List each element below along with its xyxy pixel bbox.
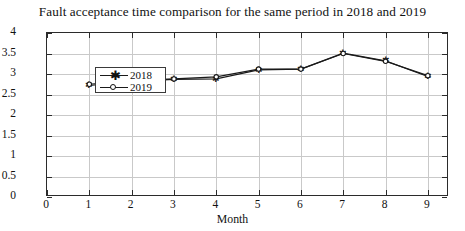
y-tick-label: 3.5 [0,47,16,59]
legend[interactable]: ✱ 2018 2019 [95,67,166,93]
y-tick-label: 2.5 [0,88,16,100]
star-marker-icon: ✱ [110,70,119,81]
data-point-marker-2019 [87,82,91,86]
y-tick-label: 0 [0,190,16,202]
x-tick-label: 7 [330,199,354,211]
legend-label-2018: 2018 [130,69,152,81]
data-point-marker-2019 [172,77,176,81]
data-point-marker-2019 [383,59,387,63]
plot-area: ✱✱✱✱✱✱✱✱✱ ✱ 2018 2019 [46,32,448,196]
legend-item-2019[interactable]: 2019 [98,82,163,93]
data-point-marker-2019 [426,73,430,77]
x-tick-label: 3 [161,199,185,211]
x-axis-title: Month [0,212,465,227]
y-tick-label: 1 [0,149,16,161]
chart-figure: Fault acceptance time comparison for the… [0,0,465,231]
y-tick-label: 1.5 [0,129,16,141]
data-point-marker-2019 [341,51,345,55]
chart-title: Fault acceptance time comparison for the… [0,4,465,20]
x-tick-label: 4 [203,199,227,211]
legend-label-2019: 2019 [130,81,152,93]
y-tick-label: 4 [0,26,16,38]
circle-marker-icon [110,84,116,90]
x-tick-label: 0 [34,199,58,211]
legend-item-2018[interactable]: ✱ 2018 [98,70,163,81]
axis-tick [442,197,447,198]
x-tick-label: 6 [288,199,312,211]
y-tick-label: 3 [0,67,16,79]
x-tick-label: 1 [76,199,100,211]
data-point-marker-2019 [256,67,260,71]
data-point-marker-2019 [214,75,218,79]
series-plot: ✱✱✱✱✱✱✱✱✱ [47,33,449,197]
y-tick-label: 0.5 [0,170,16,182]
y-tick-label: 2 [0,108,16,120]
x-tick-label: 2 [119,199,143,211]
x-tick-label: 8 [373,199,397,211]
axis-tick [47,197,52,198]
x-tick-label: 9 [415,199,439,211]
x-tick-label: 5 [246,199,270,211]
data-point-marker-2019 [299,67,303,71]
